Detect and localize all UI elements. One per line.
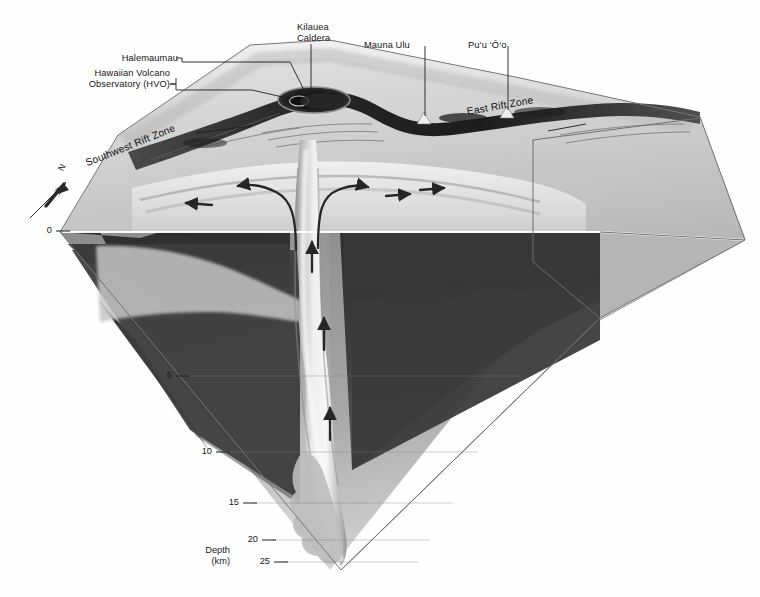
caldera-inner-floor xyxy=(300,94,344,109)
figure-canvas: · · ·· · ·· ··· ·· · ·· ·· ··· · xyxy=(0,0,760,597)
depth-axis-caption-line2: (km) xyxy=(168,556,230,566)
east-rift-vents-far xyxy=(514,107,566,117)
depth-tick-15: 15 xyxy=(213,497,239,507)
depth-tick-0: 0 xyxy=(26,225,52,235)
crust-mass-right-2 xyxy=(352,288,600,470)
label-puu-oo: Pu‘u ‘Ō‘o xyxy=(468,40,507,51)
depth-tick-25: 25 xyxy=(244,556,270,566)
depth-tick-5: 5 xyxy=(146,370,172,380)
depth-tick-20: 20 xyxy=(232,534,258,544)
label-halemaumau: Halemaumau xyxy=(70,53,178,64)
depth-axis-caption-line1: Depth xyxy=(168,545,230,555)
label-hvo-line2: Observatory (HVO) xyxy=(52,79,170,90)
label-hvo-line1: Hawaiian Volcano xyxy=(52,68,170,79)
block-body xyxy=(60,40,745,570)
north-arrow-icon xyxy=(30,182,69,218)
depth-tick-10: 10 xyxy=(186,446,212,456)
label-kilauea-line2: Caldera xyxy=(297,33,330,44)
label-mauna-ulu: Mauna Ulu xyxy=(364,40,410,51)
label-kilauea-line1: Kilauea xyxy=(297,22,329,33)
